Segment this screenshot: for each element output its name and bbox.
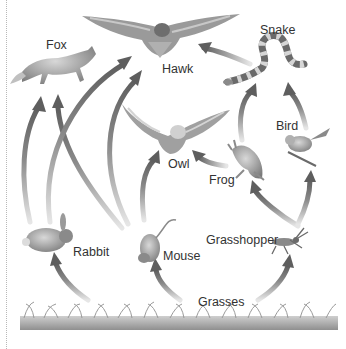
food-web-graphic <box>0 0 346 349</box>
label-rabbit: Rabbit <box>73 246 109 259</box>
grass-icon <box>20 302 338 330</box>
arrow-mouse-to-hawk <box>110 70 142 224</box>
arrow-grasses-to-rabbit <box>50 252 88 300</box>
label-snake: Snake <box>260 24 295 37</box>
label-bird: Bird <box>276 120 298 133</box>
arrow-grasshopper-to-frog <box>250 180 298 226</box>
label-mouse: Mouse <box>163 250 201 263</box>
label-hawk: Hawk <box>162 63 193 76</box>
label-owl: Owl <box>168 158 190 171</box>
arrow-grasshopper-to-bird <box>298 170 316 224</box>
arrow-grasses-to-grasshopper <box>258 254 294 300</box>
label-frog: Frog <box>209 174 235 187</box>
bird-icon <box>285 128 330 166</box>
label-grasshopper: Grasshopper <box>206 234 278 247</box>
arrow-frog-to-owl <box>192 150 226 166</box>
food-web-diagram: Fox Hawk Snake Owl Bird Frog Rabbit Mous… <box>0 0 346 349</box>
arrow-rabbit-to-fox <box>24 96 46 222</box>
label-grasses: Grasses <box>198 296 245 309</box>
arrow-grasses-to-mouse <box>150 258 180 300</box>
label-fox: Fox <box>46 39 67 52</box>
arrow-snake-to-hawk <box>198 42 250 64</box>
owl-icon <box>122 104 230 154</box>
arrow-mouse-to-owl <box>142 150 160 220</box>
arrow-frog-to-snake <box>240 83 257 140</box>
arrow-rabbit-to-hawk <box>48 56 132 222</box>
